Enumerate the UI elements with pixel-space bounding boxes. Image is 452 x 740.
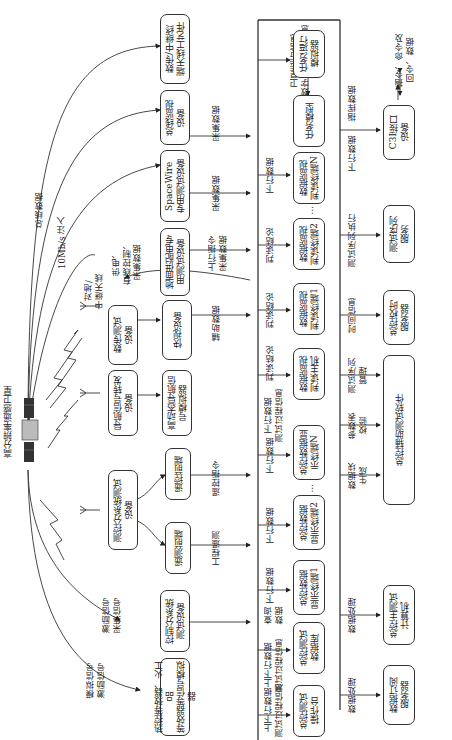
bus-monitor-link-label: 采集数据 [208,100,226,145]
main-computer-box: 总控主测试 计算机 [383,585,415,645]
tm-frontend-box: 遥测前端 [165,522,191,574]
sequence-service-box: 测试序列 服务 [383,205,415,263]
antenna-label: 对地/ 中继天线 [80,268,108,313]
monitor-2-link-label: 判读结论 [263,220,279,270]
spacewire-link-label: 采集数据 [208,170,226,215]
bus-data-label: 总线数据 [30,185,50,235]
display-n-link-label: 下行数据 [263,430,279,480]
display-terminal-1-box: 总控数据 显示终端1 [293,560,325,615]
c3i-link-label: 下行数据 [345,130,361,175]
monitor-host-box: 数据监视 判读主机 [293,348,325,400]
external-label: 指令、命令及 回令、数据 [388,30,422,90]
quicklook-link-label: 辅助数据 [208,300,226,345]
tm-link-label: 工程遥测 [208,525,226,570]
console-link-label: 上下行数据 测试过程信息 [260,680,288,740]
monitor-1-link-label: 判读结论 [263,285,279,335]
thermal-sim-box: 热控等效器、火工品 等效器等信号模拟器 [160,658,190,736]
test-db-link2-label: 查询 数据 [260,600,288,630]
satellite-icon [22,398,38,462]
monitor-terminal-1-box: 数据监视 判读终端1 [293,283,325,335]
c3i-link2-label: 指挥数据 [345,80,361,125]
display-terminal-n-box: 总控数据显 示终端N [293,425,325,480]
subscription-link-label: 数据处理 [345,670,361,720]
nav-forward-box: 导航信号转发 设备 [108,370,138,436]
nav-simulator-box: 高动态导航信 号模拟器 [162,370,192,436]
task-model-box: 任务模型 [293,95,325,147]
test-database-box: 总控测试 数据库 [293,622,325,674]
display-ellipsis: … [305,482,315,494]
main-computer-link-label: 数据处理 [345,590,361,640]
aux-software-box: 总控辅助测试软件 [383,355,415,505]
power-control-label: 供电、 有线控制、 采集数据 [108,230,148,295]
sequence-link-label: 测试序列执行 [345,205,361,275]
display-terminal-2-box: 总控数据 显示终端2 [293,495,325,550]
aux-link-1-label: 测试序列 管理 [344,355,372,395]
monitor-ellipsis: … [305,204,315,216]
injection-label: 10Mb/s 注入 [52,215,72,270]
relay-antenna-tool-box: 数传/中继终 端天线工艺件 [160,14,190,84]
ttc-test-box: 测控分系统测试 设备 [108,470,138,550]
subscription-server-box: 数据订阅 服务器 [383,665,415,725]
test-console-box: 总控测试 操作台 [293,685,325,737]
tc-link-label: 遥控指令 [208,455,226,500]
bus-monitor-box: 总线监视 设备 [160,90,190,145]
monitor-host-link-label: 判读结论 [263,340,279,385]
aux-link-3-label: 数据块 生成 [344,455,372,495]
timing-link-label: 时间信息 [345,290,361,340]
display-2-link-label: 下行数据 [263,500,279,550]
quicklook-box: 快视设备 [162,300,192,360]
tc-frontend-box: 遥控前端 [165,448,191,500]
timing-server-box: 总控校时 服务器 [383,290,415,345]
spacewire-box: SpaceWire 专用测试设备 [160,150,190,222]
monitor-terminal-2-box: 数据监视 判读终端2 [293,218,325,270]
simulated-signal-label: 模拟信号 激励信号 [82,655,110,705]
ctrl-test-box: 控制分系统 测试设备 [160,590,190,652]
excitation-label: 激励信号 采集信号 [98,590,126,640]
satellite-label: 高分辨率遥感卫星 [2,386,13,462]
ground-power-box: 地面供配电专 用测试设备 [160,228,190,296]
monitor-terminal-n-box: 数据监视 判读终端N [293,152,325,204]
task-runner-box: 任务运行 模拟器 [293,30,325,78]
ground-power-link-label: 上行指令 采集数据 [204,228,232,278]
datatrans-test-box: 数传测试 设备 [108,305,138,365]
aux-link-2-label: 参数表 校验 [344,405,372,445]
monitor-n-link-label: 下行数据 [263,150,279,200]
c3i-box: C3I接口 设备 [383,105,415,160]
